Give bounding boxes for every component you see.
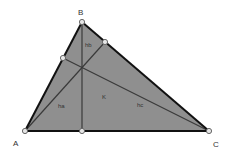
label-h-b: hb bbox=[85, 42, 92, 48]
foot-on-bc-point[interactable] bbox=[102, 39, 107, 44]
vertex-a-point[interactable] bbox=[22, 128, 27, 133]
foot-on-ac-point[interactable] bbox=[79, 128, 84, 133]
vertex-b-point[interactable] bbox=[79, 19, 84, 24]
foot-on-ab-point[interactable] bbox=[60, 55, 65, 60]
triangle-diagram: B A C hb ha K hc bbox=[0, 0, 231, 158]
label-k: K bbox=[102, 94, 106, 100]
vertex-c-point[interactable] bbox=[206, 128, 211, 133]
label-h-c: hc bbox=[137, 102, 143, 108]
label-b: B bbox=[78, 8, 83, 17]
label-h-a: ha bbox=[58, 103, 65, 109]
label-a: A bbox=[13, 139, 19, 148]
label-c: C bbox=[213, 140, 219, 149]
